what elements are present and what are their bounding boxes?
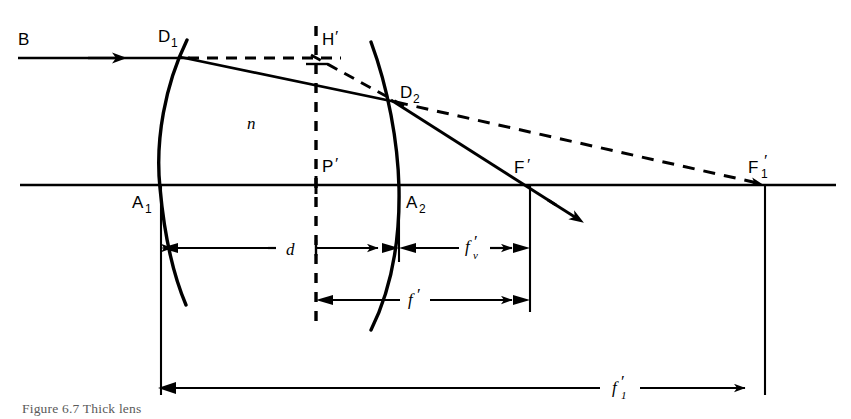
label-point-a1-subscript: 1: [145, 202, 152, 216]
label-dimension-f-prime: f: [408, 290, 415, 309]
label-incident-ray-b: B: [18, 30, 29, 49]
refracted-ray-direction-arrow: [548, 200, 578, 219]
label-dimension-f1-prime-mark: ′: [621, 372, 625, 391]
label-point-h-prime: H: [322, 30, 334, 49]
label-point-p-prime-mark: ′: [335, 154, 339, 173]
label-point-a2-subscript: 2: [419, 202, 426, 216]
figure-container: B D 1 H ′ D 2 n P ′ A 1 A 2 F ′ F 1 ′ d …: [0, 0, 851, 419]
label-point-p-prime: P: [322, 157, 333, 176]
label-dimension-f-prime-mark: ′: [417, 285, 421, 304]
label-dimension-f1-prime: f: [612, 378, 619, 397]
label-point-a2: A: [406, 193, 418, 212]
label-point-a1: A: [132, 193, 144, 212]
label-point-d2: D: [400, 83, 412, 102]
label-point-d2-subscript: 2: [413, 92, 420, 106]
dimension-line-f-arrowhead-right: [513, 295, 530, 305]
label-refractive-index-n: n: [247, 114, 256, 133]
label-dimension-fv-prime-mark: ′: [474, 232, 478, 251]
construction-line-d2-to-f1: [396, 102, 762, 184]
dimension-line-fv-arrowhead-left: [399, 243, 416, 253]
optical-diagram: B D 1 H ′ D 2 n P ′ A 1 A 2 F ′ F 1 ′ d …: [0, 0, 851, 419]
label-point-d1-subscript: 1: [171, 36, 178, 50]
figure-caption: Figure 6.7 Thick lens: [22, 401, 141, 417]
internal-ray-line: [180, 57, 396, 102]
label-dimension-fv-prime: f: [465, 237, 472, 256]
label-point-f1-prime-mark: ′: [764, 151, 768, 170]
label-point-h-prime-mark: ′: [335, 27, 339, 46]
label-point-f1-prime: F: [748, 158, 758, 177]
label-point-f-prime: F: [514, 158, 524, 177]
dimension-line-fv-arrowhead-right: [513, 243, 530, 253]
construction-line-h-to-d2: [311, 55, 404, 106]
dimension-line-f-arrowhead-left: [316, 295, 333, 305]
label-dimension-d: d: [286, 240, 295, 259]
label-point-f-prime-mark: ′: [527, 155, 531, 174]
label-point-d1: D: [158, 27, 170, 46]
refracted-ray-line: [391, 100, 556, 205]
lens-surface-1: [159, 40, 187, 305]
